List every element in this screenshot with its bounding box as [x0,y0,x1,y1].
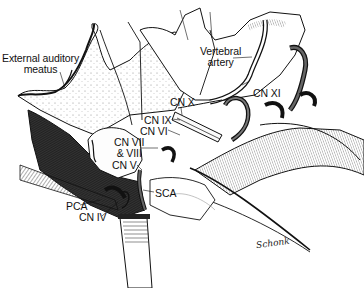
label-cn-vi: CN VI [140,126,168,137]
label-cn-vii-viii-line2: & VIII [114,148,144,159]
label-cn-x: CN X [170,97,195,108]
anatomical-illustration [0,0,364,288]
label-external-auditory-meatus-line2: meatus [2,64,79,75]
label-cn-vii-viii: CN VII & VIII [114,137,144,159]
label-sca: SCA [155,188,176,199]
label-cn-iv: CN IV [79,212,107,223]
label-vertebral-artery: Vertebral artery [200,46,241,68]
label-cn-xi: CN XI [253,88,281,99]
label-external-auditory-meatus: External auditory meatus [2,53,79,75]
label-vertebral-artery-line2: artery [200,57,241,68]
retractor-bottom [118,214,152,288]
label-cn-v: CN V [112,160,137,171]
